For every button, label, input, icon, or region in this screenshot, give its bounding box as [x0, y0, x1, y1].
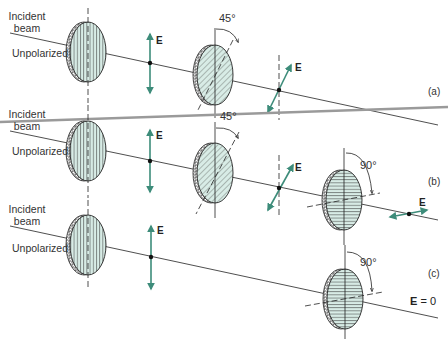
incident-beam-label-c: Incidentbeam: [2, 203, 52, 227]
panel-a: [10, 8, 438, 125]
panel-c: [10, 200, 438, 339]
e-label-a1: E: [156, 35, 163, 46]
incident-beam-label-a: Incidentbeam: [2, 10, 52, 34]
e-label-a2: E: [295, 62, 302, 73]
panel-label-a: (a): [428, 86, 440, 97]
e-vector-vertical: [148, 130, 152, 192]
unpolarized-label-b: Unpolarized: [12, 145, 68, 157]
e-label-b1: E: [156, 130, 163, 141]
panel-label-c: (c): [428, 268, 440, 279]
unpolarized-label-a: Unpolarized: [12, 47, 68, 59]
polarizer-vertical: [66, 200, 106, 290]
e-zero-label: E = 0: [410, 295, 436, 307]
polarizer-vertical: [66, 8, 106, 103]
e-vector-45deg: [268, 55, 291, 120]
e-vector-vertical: [148, 34, 152, 93]
e-label-b2: E: [295, 162, 302, 173]
polarizer-45deg: [193, 28, 238, 118]
e-label-b3: E: [419, 197, 426, 208]
angle-label-b1: 45°: [220, 110, 237, 122]
incident-beam-label-b: Incidentbeam: [2, 108, 52, 132]
panel-label-b: (b): [428, 176, 440, 187]
e-label-c1: E: [157, 225, 164, 236]
unpolarized-label-c: Unpolarized: [12, 242, 68, 254]
e-vector-vertical: [149, 226, 153, 289]
polarizer-45deg: [193, 122, 239, 218]
angle-label-b2: 90°: [360, 159, 377, 171]
angle-label-a: 45°: [219, 12, 236, 24]
e-vector-45deg: [268, 155, 293, 218]
angle-label-c: 90°: [360, 256, 377, 268]
